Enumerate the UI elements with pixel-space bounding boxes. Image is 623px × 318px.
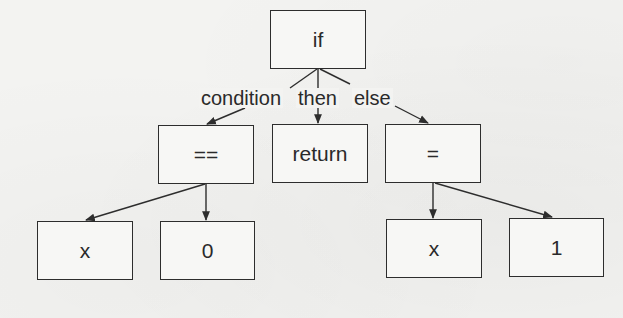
node-zero-label: 0 bbox=[202, 239, 214, 263]
node-x-left-label: x bbox=[80, 239, 91, 263]
node-return-label: return bbox=[293, 142, 348, 166]
node-x-right-label: x bbox=[429, 237, 440, 261]
node-if-label: if bbox=[313, 28, 324, 52]
edge-label-else: else bbox=[352, 88, 393, 108]
edge-label-condition: condition bbox=[199, 88, 283, 108]
node-x-left: x bbox=[37, 221, 133, 280]
edge-assign-to-one bbox=[435, 183, 552, 217]
node-equality-compare-label: == bbox=[194, 143, 219, 167]
node-assign: = bbox=[385, 124, 481, 183]
node-one: 1 bbox=[509, 218, 604, 277]
edge-eq-to-x bbox=[86, 184, 205, 220]
edge-label-then: then bbox=[296, 88, 339, 108]
node-equality-compare: == bbox=[158, 125, 254, 184]
node-assign-label: = bbox=[427, 142, 439, 166]
node-return: return bbox=[272, 124, 368, 183]
node-x-right: x bbox=[386, 219, 482, 278]
node-zero: 0 bbox=[160, 221, 255, 280]
node-one-label: 1 bbox=[551, 236, 563, 260]
node-if: if bbox=[270, 10, 366, 69]
